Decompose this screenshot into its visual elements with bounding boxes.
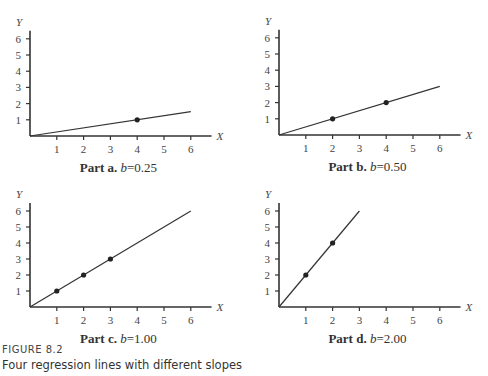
y-tick-label: 5 [265,48,271,60]
x-tick-label: 6 [188,143,194,155]
panel-caption: Part c. b=1.00 [80,331,157,346]
panel-b: 123456123456XYPart b. b=0.50 [265,15,474,174]
regression-line [279,86,440,135]
x-tick-label: 4 [383,142,389,154]
y-tick-label: 2 [265,97,271,109]
x-tick-label: 5 [410,314,416,326]
y-tick-label: 5 [16,221,22,233]
data-point [330,240,335,245]
y-tick-label: 6 [16,33,22,45]
y-axis-label: Y [16,16,24,28]
y-tick-label: 3 [16,253,22,265]
y-tick-label: 2 [16,269,22,281]
y-tick-label: 4 [16,237,22,249]
data-point [330,116,335,121]
y-tick-label: 2 [265,269,271,281]
x-tick-label: 4 [383,314,389,326]
y-tick-label: 1 [265,285,271,297]
data-point [303,272,308,277]
y-tick-label: 5 [265,221,271,233]
y-tick-label: 6 [265,32,271,44]
y-axis-label: Y [265,188,273,200]
x-tick-label: 1 [54,143,60,155]
panel-caption: Part d. b=2.00 [328,331,406,346]
y-tick-label: 4 [16,65,22,77]
y-tick-label: 3 [265,253,271,265]
x-tick-label: 2 [330,142,336,154]
x-tick-label: 1 [303,314,309,326]
y-axis-label: Y [265,15,273,27]
x-tick-label: 3 [108,143,114,155]
figure-label: FIGURE 8.2 [2,344,63,355]
x-axis-label: X [465,301,474,313]
x-tick-label: 5 [410,142,416,154]
x-axis-label: X [216,130,225,142]
panel-a: 123456123456XYPart a. b=0.25 [16,16,225,175]
x-tick-label: 1 [54,314,60,326]
y-tick-label: 3 [265,80,271,92]
y-tick-label: 1 [16,114,22,126]
panel-d: 123456123456XYPart d. b=2.00 [265,188,474,346]
x-tick-label: 6 [437,314,443,326]
y-tick-label: 4 [265,64,271,76]
x-tick-label: 2 [81,314,87,326]
x-tick-label: 3 [357,314,363,326]
y-tick-label: 2 [16,98,22,110]
y-tick-label: 4 [265,237,271,249]
x-axis-label: X [216,301,225,313]
y-tick-label: 3 [16,81,22,93]
y-tick-label: 1 [16,285,22,297]
y-tick-label: 6 [16,205,22,217]
x-tick-label: 6 [437,142,443,154]
x-tick-label: 1 [303,142,309,154]
x-tick-label: 4 [134,143,140,155]
regression-line [30,112,191,136]
x-tick-label: 3 [108,314,114,326]
data-point [108,256,113,261]
x-tick-label: 2 [81,143,87,155]
x-axis-label: X [465,129,474,141]
x-tick-label: 4 [134,314,140,326]
regression-figure: 123456123456XYPart a. b=0.25123456123456… [0,0,488,376]
x-tick-label: 6 [188,314,194,326]
y-tick-label: 1 [265,113,271,125]
x-tick-label: 2 [330,314,336,326]
y-axis-label: Y [16,188,24,200]
figure-title: Four regression lines with different slo… [2,358,242,372]
data-point [54,288,59,293]
x-tick-label: 5 [161,143,167,155]
panel-caption: Part a. b=0.25 [80,160,157,175]
y-tick-label: 5 [16,49,22,61]
data-point [135,117,140,122]
data-point [81,272,86,277]
panel-caption: Part b. b=0.50 [328,159,406,174]
y-tick-label: 6 [265,205,271,217]
regression-line [279,211,359,307]
x-tick-label: 3 [357,142,363,154]
x-tick-label: 5 [161,314,167,326]
panel-c: 123456123456XYPart c. b=1.00 [16,188,225,346]
data-point [384,100,389,105]
